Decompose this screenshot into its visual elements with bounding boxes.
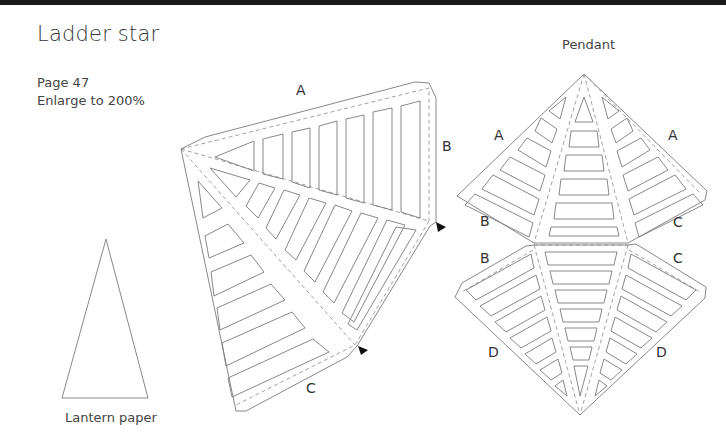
pendant-upper-template <box>457 74 707 243</box>
fold-marker-icon <box>358 346 368 355</box>
pendant-lower-label-left-b: B <box>480 250 490 266</box>
pendant-lower-label-right-c: C <box>673 250 683 266</box>
lantern-paper-triangle <box>62 239 148 398</box>
pendant-lower-label-right-d: D <box>656 344 667 360</box>
fold-marker-icon <box>436 222 446 232</box>
pendant-upper-label-right-a: A <box>668 127 678 143</box>
lantern-paper-caption: Lantern paper <box>65 410 157 425</box>
star-edge-label-b: B <box>442 138 452 154</box>
pendant-lower-template <box>455 244 706 415</box>
ladder-star-template <box>181 82 436 411</box>
templates-canvas <box>0 0 726 435</box>
pendant-upper-label-left-b: B <box>480 213 490 229</box>
pendant-upper-label-right-c: C <box>673 214 683 230</box>
pendant-lower-label-left-d: D <box>488 344 499 360</box>
star-edge-label-a: A <box>296 82 306 98</box>
star-edge-label-c: C <box>306 380 316 396</box>
pendant-upper-label-left-a: A <box>494 127 504 143</box>
pendant-caption: Pendant <box>562 37 615 52</box>
